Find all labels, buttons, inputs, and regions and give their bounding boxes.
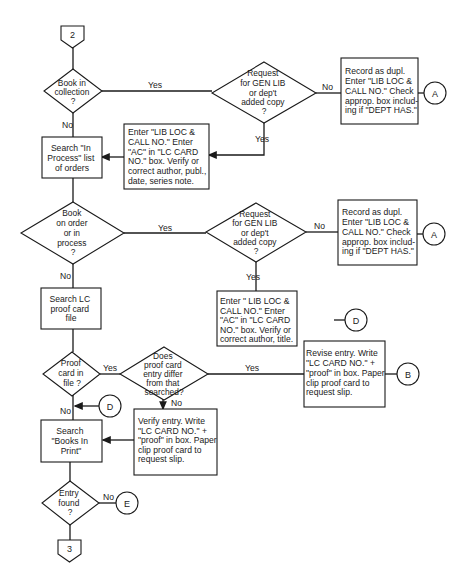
process-text: date, series note. [128, 176, 194, 186]
decision-book-in-collection: Book in collection ? [44, 69, 102, 113]
process-text: "Books In [52, 436, 89, 446]
decision-text: ? [71, 247, 76, 257]
process-text: "proof" in box. Paper [138, 435, 217, 445]
connector-label: A [432, 89, 438, 99]
process-text: CALL NO." Check [342, 227, 411, 237]
process-text: request slip. [306, 387, 352, 397]
connector-d-1: D [345, 309, 367, 331]
edge-label-yes: Yes [246, 272, 260, 282]
decision-entry-found: Entry found ? [42, 481, 99, 525]
decision-text: Request [247, 68, 279, 78]
decision-text: ? [71, 96, 76, 106]
process-text: CALL NO." Enter [128, 137, 193, 147]
decision-text: searched? [144, 387, 183, 397]
edge-label-no: No [60, 406, 71, 416]
process-record-dupl-2: Record as dupl. Enter "LIB LOC & CALL NO… [338, 200, 417, 265]
process-text: "AC" in "LC CARD [220, 315, 290, 325]
connector-e: E [116, 492, 138, 514]
process-text: Enter "LIB LOC & [128, 127, 195, 137]
process-text: Process" list [47, 153, 95, 163]
process-text: ing if "DEPT HAS." [345, 105, 417, 115]
decision-text: ? [68, 507, 73, 517]
edge-label-yes: Yes [255, 134, 269, 144]
process-text: Search LC [50, 294, 91, 304]
offpage-connector-end: 3 [58, 540, 81, 562]
process-text: Verify entry. Write [138, 416, 205, 426]
edge-label-yes: Yes [158, 223, 172, 233]
process-text: "LC CARD NO." + [306, 358, 375, 368]
decision-text: on order [56, 218, 87, 228]
decision-text: ? [254, 246, 259, 256]
edge-label-yes: Yes [103, 363, 117, 373]
process-text: "proof" in box. Paper [306, 368, 385, 378]
decision-text: or in [64, 228, 81, 238]
process-text: ing if "DEPT HAS." [342, 246, 414, 256]
decision-text: for GEN LIB [240, 78, 286, 88]
process-text: Record as dupl. [342, 207, 402, 217]
process-text: file [66, 313, 77, 323]
offpage-connector-start: 2 [61, 26, 84, 48]
process-text: CALL NO." Check [345, 86, 414, 96]
connector-a-1: A [424, 82, 446, 104]
process-search-lc-proof: Search LC proof card file [41, 288, 101, 329]
connector-label: E [124, 499, 130, 509]
decision-text: for GEN LIB [232, 218, 278, 228]
process-revise-entry: Revise entry. Write "LC CARD NO." + "pro… [304, 341, 387, 407]
process-text: request slip. [138, 454, 184, 464]
edge-label-yes: Yes [148, 80, 162, 90]
edge-label-no: No [62, 120, 73, 130]
process-text: Print" [61, 446, 82, 456]
process-text: correct author, publ., [128, 166, 206, 176]
edge-label-no: No [322, 82, 333, 92]
connector-label: D [107, 402, 114, 412]
decision-text: file ? [63, 378, 81, 388]
process-text: correct author, title. [220, 334, 293, 344]
process-text: Enter "LIB LOC & [342, 217, 409, 227]
connector-label: D [353, 316, 360, 326]
decision-proof-card-in-file: Proof card in file ? [43, 352, 100, 396]
connector-label: A [431, 230, 437, 240]
edge-label-no: No [314, 221, 325, 231]
decision-text: ? [262, 106, 267, 116]
decision-text: Entry [59, 488, 79, 498]
decision-text: Proof [61, 358, 82, 368]
process-search-in-process: Search "In Process" list of orders [42, 137, 102, 178]
decision-book-on-order: Book on order or in process ? [21, 202, 124, 264]
connector-label: B [405, 370, 411, 380]
process-text: Enter "LIB LOC & [345, 76, 412, 86]
decision-request-gen-lib-1: Request for GEN LIB or dep't added copy … [212, 62, 316, 123]
process-text: Search [56, 426, 83, 436]
process-search-books-in-print: Search "Books In Print" [41, 420, 102, 462]
process-text: Record as dupl. [345, 66, 405, 76]
decision-text: card in [58, 368, 83, 378]
edge-label-no: No [103, 492, 114, 502]
flowchart: 2 3 Book in collection ? Request for GEN… [0, 0, 466, 581]
svg-text:Enter " LIB LOC & CALL N: Enter " LIB LOC & CALL NO." Enter "AC" i… [220, 296, 293, 344]
process-text: Revise entry. Write [306, 348, 378, 358]
connector-b: B [397, 363, 419, 385]
edge-label-yes: Yes [245, 363, 259, 373]
connector-a-2: A [423, 223, 445, 245]
process-text: Search "In [51, 143, 91, 153]
process-enter-lib-loc-1: Enter "LIB LOC & CALL NO." Enter "AC" in… [124, 124, 209, 189]
edge-label-no: No [60, 271, 71, 281]
process-record-dupl-1: Record as dupl. Enter "LIB LOC & CALL NO… [341, 58, 420, 124]
connector-d-2: D [99, 395, 121, 417]
decision-text: Book [62, 208, 82, 218]
process-text: Enter " LIB LOC & [220, 296, 290, 306]
decision-request-gen-lib-2: Request for GEN LIB or dep't added copy … [206, 203, 306, 262]
process-text: of orders [55, 163, 89, 173]
decision-proof-card-differ: Does proof card entry differ from that s… [120, 347, 208, 400]
edge-label-no: No [171, 398, 182, 408]
process-enter-lib-loc-2: Enter " LIB LOC & CALL NO." Enter "AC" i… [217, 291, 297, 346]
offpage-label-start: 2 [70, 30, 75, 40]
process-text: NO." box. Verify or [128, 156, 199, 166]
offpage-label-end: 3 [67, 544, 72, 554]
process-verify-entry: Verify entry. Write "LC CARD NO." + "pro… [134, 409, 219, 475]
